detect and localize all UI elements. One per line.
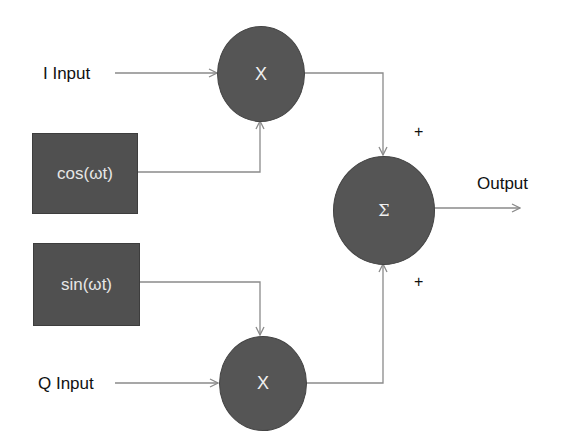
top-multiplier: X bbox=[217, 26, 305, 122]
bottom-plus-sign: + bbox=[414, 274, 423, 290]
summer: Σ bbox=[333, 156, 435, 265]
sin-oscillator-block: sin(ωt) bbox=[33, 243, 140, 326]
bottom-multiplier: X bbox=[219, 336, 307, 431]
multiply-icon: X bbox=[255, 64, 267, 85]
cos-to-multiplier-arrow bbox=[137, 121, 260, 172]
cos-oscillator-label: cos(ωt) bbox=[57, 164, 113, 184]
q-input-label: Q Input bbox=[38, 375, 94, 392]
bottom-multiplier-to-sum-arrow bbox=[305, 264, 383, 383]
top-multiplier-to-sum-arrow bbox=[303, 73, 383, 155]
sin-to-multiplier-arrow bbox=[139, 282, 260, 335]
multiply-icon: X bbox=[257, 373, 269, 394]
i-input-label: I Input bbox=[43, 65, 90, 82]
sin-oscillator-label: sin(ωt) bbox=[61, 275, 112, 295]
output-label: Output bbox=[477, 175, 528, 192]
cos-oscillator-block: cos(ωt) bbox=[32, 133, 138, 214]
top-plus-sign: + bbox=[414, 124, 423, 140]
sigma-icon: Σ bbox=[378, 201, 389, 220]
